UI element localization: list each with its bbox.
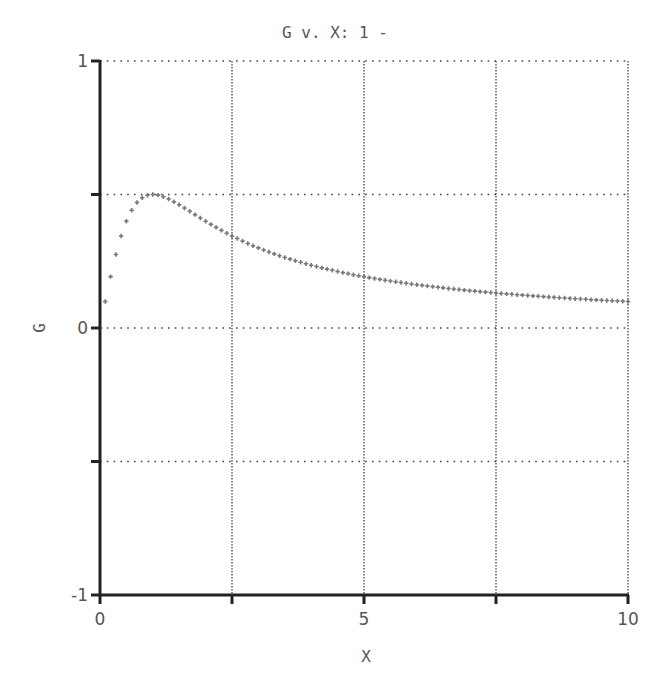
- data-point-marker: [230, 234, 234, 238]
- data-point-marker: [589, 297, 593, 301]
- data-point-marker: [166, 197, 170, 201]
- data-point-marker: [277, 254, 281, 258]
- data-point-marker: [499, 291, 503, 295]
- data-point-marker: [298, 260, 302, 264]
- data-point-marker: [430, 284, 434, 288]
- data-point-marker: [568, 296, 572, 300]
- data-point-marker: [515, 293, 519, 297]
- data-point-marker: [193, 212, 197, 216]
- data-point-marker: [467, 288, 471, 292]
- data-point-marker: [203, 219, 207, 223]
- data-point-marker: [219, 228, 223, 232]
- data-point-marker: [578, 297, 582, 301]
- data-point-marker: [246, 241, 250, 245]
- data-point-marker: [441, 286, 445, 290]
- data-point-marker: [172, 200, 176, 204]
- data-point-marker: [225, 231, 229, 235]
- data-series: [98, 192, 630, 330]
- data-point-marker: [357, 273, 361, 277]
- y-tick-label: 1: [77, 51, 88, 71]
- data-point-marker: [415, 283, 419, 287]
- data-point-marker: [330, 268, 334, 272]
- data-point-marker: [473, 289, 477, 293]
- y-tick-label: -1: [71, 585, 88, 605]
- data-point-marker: [367, 275, 371, 279]
- data-point-marker: [393, 280, 397, 284]
- data-point-marker: [293, 259, 297, 263]
- tick-labels: 0510-101: [71, 51, 639, 629]
- data-point-marker: [261, 248, 265, 252]
- data-point-marker: [494, 291, 498, 295]
- axes: [91, 60, 629, 604]
- data-point-marker: [156, 193, 160, 197]
- data-point-marker: [103, 299, 107, 303]
- x-tick-label: 5: [359, 609, 370, 629]
- data-point-marker: [188, 209, 192, 213]
- data-point-marker: [536, 294, 540, 298]
- data-point-marker: [425, 284, 429, 288]
- data-point-marker: [573, 296, 577, 300]
- data-point-marker: [446, 286, 450, 290]
- data-point-marker: [351, 272, 355, 276]
- data-point-marker: [335, 269, 339, 273]
- data-point-marker: [135, 200, 139, 204]
- data-point-marker: [304, 262, 308, 266]
- data-point-marker: [510, 292, 514, 296]
- y-axis-label: G: [30, 323, 49, 333]
- data-point-marker: [452, 287, 456, 291]
- data-point-marker: [615, 299, 619, 303]
- data-point-marker: [272, 252, 276, 256]
- data-point-marker: [198, 216, 202, 220]
- data-point-marker: [399, 280, 403, 284]
- data-point-marker: [256, 246, 260, 250]
- data-point-marker: [346, 271, 350, 275]
- data-point-marker: [145, 193, 149, 197]
- grid-lines: [100, 61, 628, 595]
- data-point-marker: [478, 289, 482, 293]
- data-point-marker: [124, 219, 128, 223]
- data-point-marker: [547, 295, 551, 299]
- data-point-marker: [388, 279, 392, 283]
- data-point-marker: [525, 293, 529, 297]
- data-point-marker: [562, 296, 566, 300]
- data-point-marker: [626, 299, 630, 303]
- data-point-marker: [457, 287, 461, 291]
- data-point-marker: [610, 299, 614, 303]
- data-point-marker: [594, 298, 598, 302]
- data-point-marker: [309, 263, 313, 267]
- data-point-marker: [552, 295, 556, 299]
- data-point-marker: [129, 208, 133, 212]
- data-point-marker: [251, 244, 255, 248]
- data-point-marker: [483, 290, 487, 294]
- data-point-marker: [325, 267, 329, 271]
- data-point-marker: [599, 298, 603, 302]
- data-point-marker: [119, 234, 123, 238]
- data-point-marker: [267, 250, 271, 254]
- data-point-marker: [182, 206, 186, 210]
- chart-title: G v. X: 1 -: [282, 23, 388, 42]
- data-point-marker: [209, 222, 213, 226]
- data-point-marker: [541, 294, 545, 298]
- data-point-marker: [314, 264, 318, 268]
- data-point-marker: [462, 288, 466, 292]
- data-point-marker: [383, 278, 387, 282]
- data-point-marker: [114, 252, 118, 256]
- data-point-marker: [605, 298, 609, 302]
- y-tick-label: 0: [77, 318, 88, 338]
- x-axis-label: X: [361, 647, 371, 666]
- data-point-marker: [584, 297, 588, 301]
- data-point-marker: [531, 294, 535, 298]
- data-point-marker: [283, 255, 287, 259]
- data-point-marker: [362, 274, 366, 278]
- data-point-marker: [520, 293, 524, 297]
- data-point-marker: [557, 296, 561, 300]
- data-point-marker: [420, 283, 424, 287]
- data-point-marker: [288, 257, 292, 261]
- data-point-marker: [621, 299, 625, 303]
- chart: G v. X: 1 - 0510-101 X G: [0, 0, 669, 699]
- data-point-marker: [108, 274, 112, 278]
- data-point-marker: [177, 203, 181, 207]
- x-tick-label: 10: [617, 609, 639, 629]
- data-point-marker: [235, 236, 239, 240]
- data-point-marker: [320, 266, 324, 270]
